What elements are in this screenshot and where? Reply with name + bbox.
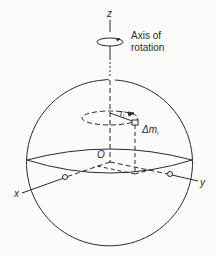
y-axis-outer: [172, 175, 198, 181]
axis-caption-line2: rotation: [131, 42, 164, 53]
x-axis-inner: [66, 162, 110, 177]
radius-label: ri: [120, 108, 125, 119]
mass-element: [132, 120, 138, 125]
x-axis-pivot: [63, 175, 68, 180]
mass-label: Δmi: [141, 124, 159, 136]
sphere-outline: [26, 80, 192, 246]
origin-label: O: [97, 149, 105, 160]
y-axis-pivot: [168, 172, 173, 177]
y-axis-label: y: [199, 177, 206, 188]
rotating-sphere-diagram: z Axis of rotation O x y ri Δmi: [0, 0, 217, 255]
axis-caption-line1: Axis of: [131, 30, 161, 41]
x-axis-label: x: [13, 188, 20, 199]
z-axis-label: z: [106, 8, 112, 19]
